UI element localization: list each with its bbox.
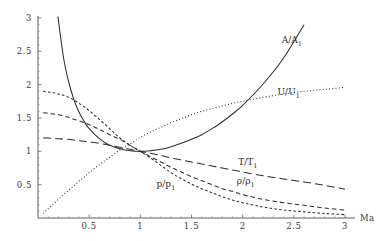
y-tick-label: 1.5 (17, 113, 32, 123)
x-tick-label: 0.5 (82, 221, 97, 231)
series-label-T-T1: T/T1 (238, 157, 257, 170)
y-tick-labels: 0.511.522.53 (17, 13, 32, 190)
y-tick-label: 2.5 (17, 46, 32, 56)
series-annotation-labels: A/A1U/U1T/T1ρ/ρ1p/p1 (157, 35, 302, 192)
y-tick-label: 3 (26, 13, 32, 23)
series-label-rho-rho1: ρ/ρ1 (237, 176, 255, 189)
x-tick-label: 2 (240, 221, 246, 231)
y-tick-label: 1 (26, 146, 32, 156)
y-tick-label: 0.5 (17, 180, 32, 190)
x-axis-label: Ma (360, 213, 375, 223)
x-tick-label: 1.5 (184, 221, 199, 231)
x-tick-labels: 0.511.522.53 (82, 221, 349, 231)
curve-T-T1 (43, 138, 345, 189)
axes-group (38, 16, 355, 218)
curve-U-U1 (43, 87, 345, 213)
x-tick-label: 2.5 (286, 221, 301, 231)
y-tick-label: 2 (26, 80, 32, 90)
x-tick-label: 1 (137, 221, 143, 231)
isentropic-flow-chart: 0.511.522.53 0.511.522.53 A/A1U/U1T/T1ρ/… (0, 0, 384, 241)
chart-canvas: 0.511.522.53 0.511.522.53 A/A1U/U1T/T1ρ/… (0, 0, 384, 241)
curve-p-p1 (43, 91, 345, 214)
x-tick-label: 3 (342, 221, 348, 231)
series-label-p-p1: p/p1 (157, 179, 176, 192)
series-label-U-U1: U/U1 (278, 87, 300, 100)
curve-A-A1 (58, 17, 304, 151)
